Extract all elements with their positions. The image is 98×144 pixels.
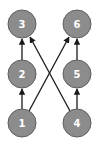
node-6: 6 bbox=[63, 10, 91, 38]
node-label: 2 bbox=[19, 69, 26, 80]
node-label: 3 bbox=[19, 19, 26, 30]
node-label: 4 bbox=[74, 118, 81, 129]
node-label: 1 bbox=[19, 118, 26, 129]
node-1: 1 bbox=[8, 109, 36, 137]
node-3: 3 bbox=[8, 10, 36, 38]
graph-canvas: 3 6 2 5 1 4 bbox=[0, 0, 98, 144]
node-5: 5 bbox=[63, 60, 91, 88]
node-label: 5 bbox=[74, 69, 81, 80]
node-4: 4 bbox=[63, 109, 91, 137]
node-label: 6 bbox=[74, 19, 81, 30]
node-2: 2 bbox=[8, 60, 36, 88]
